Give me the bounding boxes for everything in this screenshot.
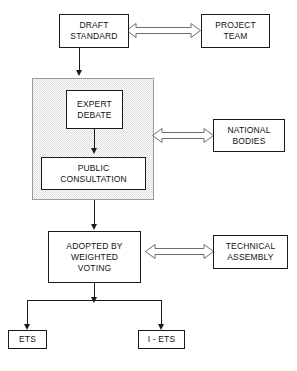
node-project-team-line1: PROJECT <box>215 20 256 31</box>
node-public-consultation-line1: PUBLIC <box>78 163 110 174</box>
node-national-bodies[interactable]: NATIONAL BODIES <box>213 119 285 152</box>
connector-branch-right-line <box>161 300 162 326</box>
node-project-team[interactable]: PROJECT TEAM <box>201 14 270 48</box>
connector-branch-left-line <box>27 300 28 326</box>
node-draft-standard-line2: STANDARD <box>70 31 117 42</box>
node-i-ets[interactable]: I - ETS <box>138 330 185 349</box>
connector-adopted-branch-bar <box>27 300 162 301</box>
connector-adopted-technical-double-arrow <box>145 243 214 260</box>
node-draft-standard[interactable]: DRAFT STANDARD <box>59 14 129 48</box>
connector-debate-to-consultation-line <box>94 129 95 150</box>
node-public-consultation[interactable]: PUBLIC CONSULTATION <box>41 157 146 190</box>
node-expert-debate[interactable]: EXPERT DEBATE <box>66 90 123 129</box>
node-technical-assembly[interactable]: TECHNICAL ASSEMBLY <box>213 235 288 269</box>
node-adopted-by-weighted-voting[interactable]: ADOPTED BY WEIGHTED VOTING <box>48 231 141 283</box>
connector-panel-to-adopted-line <box>94 200 95 226</box>
connector-panel-national-double-arrow <box>152 127 214 144</box>
node-adopted-line1: ADOPTED BY <box>66 241 122 252</box>
node-adopted-line2: WEIGHTED <box>71 252 118 263</box>
node-national-bodies-line1: NATIONAL <box>227 125 270 136</box>
flowchart-diagram: DRAFT STANDARD PROJECT TEAM EXPERT DEBAT… <box>0 0 297 371</box>
node-adopted-line3: VOTING <box>78 263 112 274</box>
node-technical-assembly-line1: TECHNICAL <box>226 241 276 252</box>
node-expert-debate-line2: DEBATE <box>77 110 111 121</box>
node-ets-label: ETS <box>19 334 36 345</box>
connector-draft-to-panel-line <box>79 48 80 72</box>
node-draft-standard-line1: DRAFT <box>79 20 108 31</box>
node-expert-debate-line1: EXPERT <box>77 99 112 110</box>
connector-debate-to-consultation-arrowhead <box>91 148 97 154</box>
node-national-bodies-line2: BODIES <box>232 136 265 147</box>
node-technical-assembly-line2: ASSEMBLY <box>227 252 273 263</box>
connector-draft-project-double-arrow <box>126 22 201 39</box>
connector-draft-to-panel-arrowhead <box>76 70 82 76</box>
connector-panel-to-adopted-arrowhead <box>91 224 97 230</box>
node-i-ets-label: I - ETS <box>148 334 176 345</box>
node-ets[interactable]: ETS <box>8 330 47 349</box>
node-public-consultation-line2: CONSULTATION <box>60 174 127 185</box>
node-project-team-line2: TEAM <box>223 31 247 42</box>
